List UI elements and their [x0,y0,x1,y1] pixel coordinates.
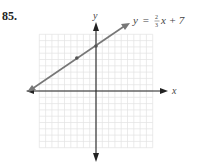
equation-rest: x + 7 [160,14,185,26]
equation-label: y = 2 3 x + 7 [132,14,185,28]
graph: x y y = 2 3 x + 7 [0,0,205,168]
y-axis-arrow-down-icon [93,153,99,162]
line-arrow-end-icon [121,23,130,30]
y-axis [93,22,99,162]
fraction-numerator: 2 [155,14,158,20]
x-axis-arrow-right-icon [160,88,168,94]
svg-text:y =: y = [132,14,149,26]
y-axis-arrow-up-icon [93,22,99,31]
x-axis-label: x [171,85,177,96]
point-0-7 [94,44,98,48]
point-neg3-5 [75,56,79,60]
fraction-denominator: 3 [155,22,158,28]
y-axis-label: y [92,10,98,21]
